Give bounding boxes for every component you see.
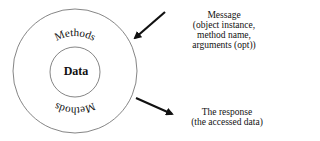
message-line: arguments (opt)) — [178, 40, 270, 50]
response-arrow — [136, 98, 172, 114]
message-label: Message (object instance, method name, a… — [178, 10, 270, 50]
response-label: The response (the accessed data) — [180, 107, 274, 127]
response-line: (the accessed data) — [180, 117, 274, 127]
message-line: (object instance, — [178, 20, 270, 30]
response-line: The response — [180, 107, 274, 117]
methods-label-bottom: Methods — [52, 101, 97, 118]
message-arrow — [135, 12, 165, 38]
message-line: method name, — [178, 30, 270, 40]
message-line: Message — [178, 10, 270, 20]
data-label: Data — [55, 64, 97, 79]
methods-label-top: Methods — [53, 26, 98, 43]
